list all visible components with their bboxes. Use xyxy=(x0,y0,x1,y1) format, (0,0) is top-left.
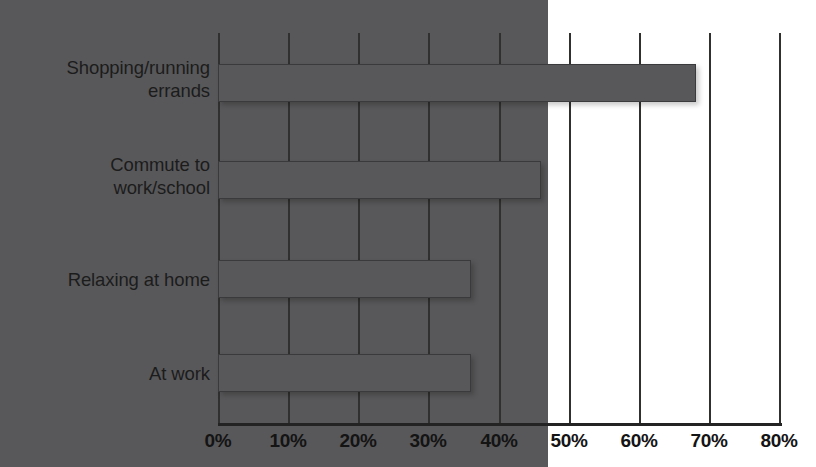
bar-commute-to-work-school xyxy=(218,161,541,199)
bar-chart: Shopping/running errands Commute to work… xyxy=(0,0,548,467)
xtick-label-20: 20% xyxy=(318,430,398,452)
category-label-at-work: At work xyxy=(4,362,210,385)
xtick-label-40: 40% xyxy=(459,430,539,452)
xtick-label-60: 60% xyxy=(599,430,679,452)
category-axis-labels: Shopping/running errands Commute to work… xyxy=(0,0,210,467)
gridline-80 xyxy=(779,33,781,424)
plot-area xyxy=(218,33,780,424)
xtick-label-50: 50% xyxy=(529,430,609,452)
bar-relaxing-at-home xyxy=(218,260,471,298)
xtick-label-70: 70% xyxy=(669,430,749,452)
xtick-label-10: 10% xyxy=(248,430,328,452)
xtick-label-0: 0% xyxy=(178,430,258,452)
gridline-70 xyxy=(709,33,711,424)
bar-shopping-running-errands xyxy=(218,64,696,102)
x-axis-tick-labels: 0% 10% 20% 30% 40% 50% 60% 70% 80% xyxy=(0,430,816,467)
xtick-label-30: 30% xyxy=(388,430,468,452)
category-label-shopping-running-errands: Shopping/running errands xyxy=(4,56,210,102)
category-label-relaxing-at-home: Relaxing at home xyxy=(4,268,210,291)
category-label-commute-to-work-school: Commute to work/school xyxy=(4,153,210,199)
xtick-label-80: 80% xyxy=(739,430,816,452)
bar-at-work xyxy=(218,354,471,392)
x-axis-line xyxy=(218,423,782,426)
